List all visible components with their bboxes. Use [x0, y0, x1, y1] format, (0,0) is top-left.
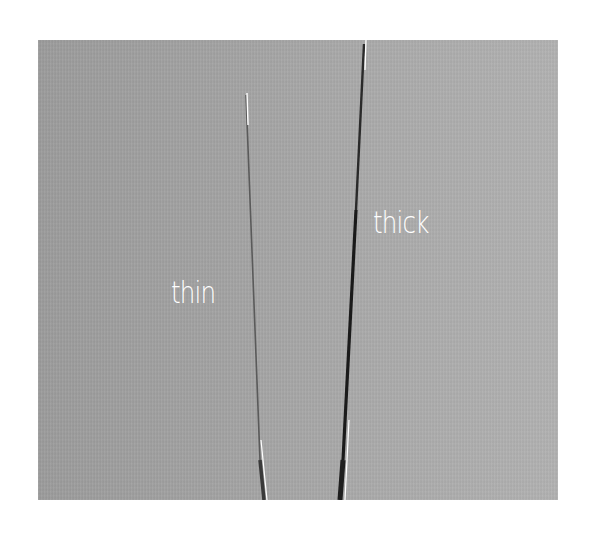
thin-fiber	[246, 93, 267, 500]
fiber-photo: thin thick	[38, 40, 558, 500]
fibers-illustration	[38, 40, 558, 500]
thin-label: thin	[171, 278, 215, 308]
thick-label: thick	[373, 208, 429, 238]
thick-fiber	[340, 40, 366, 500]
